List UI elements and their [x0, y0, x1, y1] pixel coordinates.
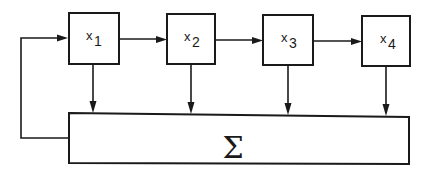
arrowhead-x3-sum — [285, 103, 292, 115]
arrowhead-x1-sum — [90, 101, 97, 113]
node-x2-sub: 2 — [192, 34, 200, 50]
sum-node: Σ — [69, 113, 409, 165]
node-x2-var: x — [184, 29, 191, 44]
arrowhead-x1-x2 — [156, 36, 167, 43]
node-x1: x 1 — [69, 13, 119, 64]
node-x4-var: x — [380, 31, 387, 46]
node-x3: x 3 — [263, 15, 313, 65]
arrowhead-x4-sum — [383, 104, 390, 116]
node-x3-sub: 3 — [289, 35, 297, 51]
node-x4-sub: 4 — [388, 36, 396, 52]
arrowhead-x2-sum — [188, 102, 195, 114]
node-x2: x 2 — [167, 14, 215, 64]
shift-register-diagram: x 1 x 2 x 3 x 4 Σ — [0, 0, 428, 176]
node-x1-var: x — [86, 28, 93, 43]
sigma-symbol: Σ — [222, 130, 243, 165]
arrowhead-x3-x4 — [351, 38, 362, 45]
node-x1-sub: 1 — [94, 33, 102, 49]
arrowhead-x2-x3 — [252, 37, 263, 44]
feedback-line — [21, 38, 69, 138]
node-x4: x 4 — [362, 16, 410, 66]
node-x3-var: x — [281, 30, 288, 45]
feedback-arrowhead — [57, 35, 68, 42]
